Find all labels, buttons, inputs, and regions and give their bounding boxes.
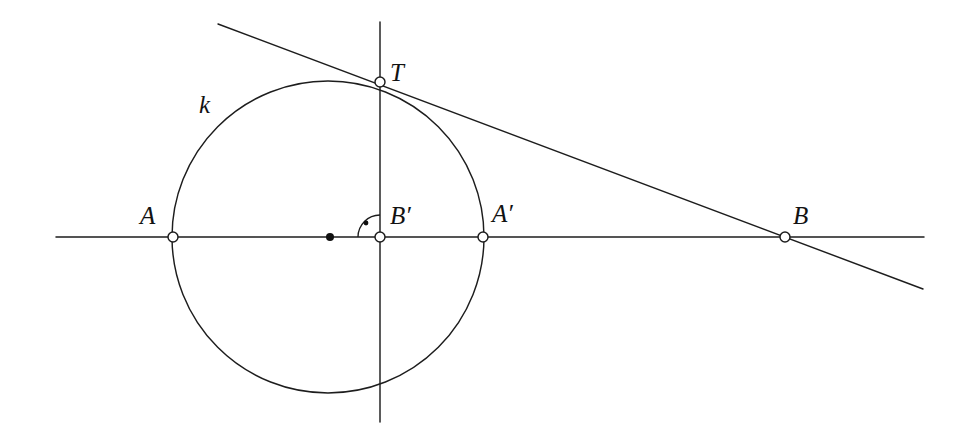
right-angle-dot-icon [364,221,369,226]
label-circle-k: k [199,92,210,117]
point-marker-b [780,232,790,242]
point-marker-a [168,232,178,242]
geometry-figure: k T A B′ A′ B [0,0,967,442]
label-point-t: T [390,60,404,85]
label-point-b-prime: B′ [390,203,411,228]
label-point-b: B [793,203,808,228]
label-point-a: A [140,203,155,228]
circle-center-point [326,233,334,241]
tangent-line [218,24,923,289]
point-marker-t [375,77,385,87]
label-point-a-prime: A′ [492,201,513,226]
point-marker-b-prime [375,232,385,242]
point-marker-a-prime [478,232,488,242]
